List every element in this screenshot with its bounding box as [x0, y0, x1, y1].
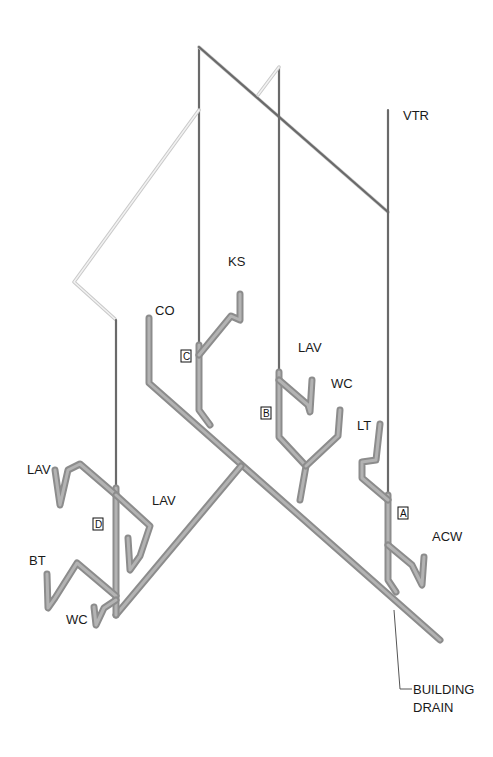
label-lav-b: LAV — [298, 340, 322, 355]
label-lav-d-left: LAV — [27, 462, 51, 477]
label-bt: BT — [29, 553, 46, 568]
building-drain-callout: BUILDING DRAIN — [413, 682, 474, 715]
label-vtr: VTR — [403, 108, 429, 123]
svg-text:C: C — [183, 351, 190, 362]
label-wc-d: WC — [66, 612, 88, 627]
label-lt: LT — [357, 418, 371, 433]
stack-d-vent-offset — [74, 110, 199, 319]
lav-d-right-branch — [116, 495, 150, 570]
callout-line1: BUILDING — [413, 682, 474, 697]
svg-text:B: B — [263, 408, 270, 419]
building-drain-leader — [394, 610, 412, 689]
vent-header-line — [199, 47, 388, 212]
label-co: CO — [155, 303, 175, 318]
svg-text:D: D — [95, 519, 102, 530]
svg-text:A: A — [400, 508, 407, 519]
label-lav-d-right: LAV — [152, 493, 176, 508]
plumbing-riser-diagram: VTR KS CO LAV WC LT ACW LAV LAV BT WC A … — [0, 0, 493, 757]
label-acw: ACW — [432, 529, 463, 544]
callout-line2: DRAIN — [413, 700, 453, 715]
stack-marker-b: B — [261, 407, 271, 419]
label-ks: KS — [228, 254, 246, 269]
label-wc-b: WC — [331, 376, 353, 391]
stack-marker-d: D — [93, 518, 103, 530]
stack-markers: A B C D — [93, 350, 408, 530]
stack-marker-c: C — [181, 350, 191, 362]
drain-piping — [47, 294, 440, 640]
stack-marker-a: A — [398, 507, 408, 519]
